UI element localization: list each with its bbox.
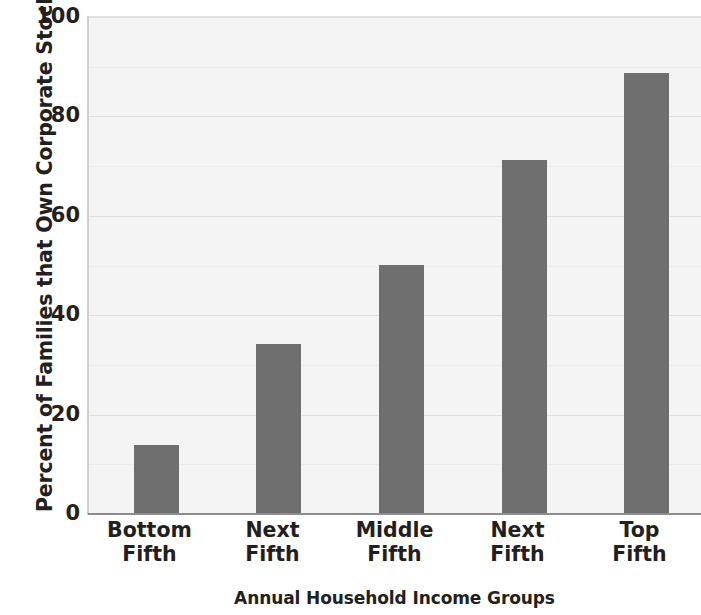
bar: [624, 73, 669, 513]
y-axis-line: [87, 16, 89, 515]
bar-chart-figure: Percent of Families that Own Corporate S…: [0, 0, 701, 615]
y-axis-tick-labels: 020406080100: [34, 0, 80, 530]
x-tick-label-line2: Fifth: [211, 542, 334, 566]
y-tick-label: 40: [34, 304, 80, 325]
y-tick-label: 0: [34, 503, 80, 524]
x-tick-label: BottomFifth: [88, 518, 211, 566]
x-tick-label-line1: Next: [211, 518, 334, 542]
x-tick-label: MiddleFifth: [333, 518, 456, 566]
bar: [502, 160, 547, 513]
x-tick-label-line1: Bottom: [88, 518, 211, 542]
y-tick-label: 60: [34, 205, 80, 226]
x-tick-label-line1: Top: [578, 518, 701, 542]
x-tick-label-line2: Fifth: [333, 542, 456, 566]
y-tick-label: 20: [34, 404, 80, 425]
y-tick-label: 80: [34, 105, 80, 126]
x-tick-label: NextFifth: [456, 518, 579, 566]
plot-area: [88, 16, 701, 513]
bar: [256, 344, 301, 513]
bar: [379, 265, 424, 514]
bar: [134, 445, 179, 513]
x-tick-label-line2: Fifth: [88, 542, 211, 566]
x-tick-label: NextFifth: [211, 518, 334, 566]
x-tick-label-line1: Middle: [333, 518, 456, 542]
x-tick-label-line2: Fifth: [456, 542, 579, 566]
y-tick-label: 100: [34, 6, 80, 27]
x-tick-label-line2: Fifth: [578, 542, 701, 566]
bars-layer: [89, 17, 701, 513]
x-axis-title: Annual Household Income Groups: [88, 588, 701, 608]
x-tick-label-line1: Next: [456, 518, 579, 542]
x-tick-label: TopFifth: [578, 518, 701, 566]
x-axis-tick-labels: BottomFifthNextFifthMiddleFifthNextFifth…: [88, 518, 701, 578]
x-axis-line: [88, 513, 701, 515]
